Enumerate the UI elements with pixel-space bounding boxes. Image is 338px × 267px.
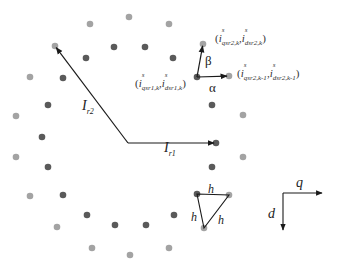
space-vector-diagram xyxy=(0,0,338,267)
triangle-side-label-top: h xyxy=(208,183,214,195)
inner-vector-dot xyxy=(209,102,216,109)
sub-d: dsr2,k xyxy=(245,39,262,47)
sub-d: dsr2,k-1 xyxy=(273,74,296,82)
sub-q: qsr2,k-1 xyxy=(244,74,267,82)
inner-vector-dot xyxy=(143,222,150,229)
inner-vector-dot xyxy=(84,212,91,219)
inner-vector-dot xyxy=(45,102,52,109)
sup-s: s xyxy=(142,72,145,79)
outer-vector-dot xyxy=(240,154,247,161)
paren-close: ) xyxy=(182,77,186,89)
alpha-arrow xyxy=(197,76,227,77)
coord-label-sr2-k: (isqsr2,k,isdsr2,k) xyxy=(215,33,266,47)
paren-close: ) xyxy=(262,32,266,44)
inner-vector-dot xyxy=(111,44,118,51)
inner-vector-dot xyxy=(209,164,216,171)
outer-vector-dot xyxy=(127,252,134,259)
paren-close: ) xyxy=(296,67,300,79)
outer-vector-dot xyxy=(27,74,34,81)
inner-vector-dot xyxy=(112,222,119,229)
inner-vector-dot xyxy=(171,212,178,219)
sub-q: qsr2,k xyxy=(222,39,239,47)
outer-vector-dot xyxy=(87,21,94,28)
inner-vector-dot xyxy=(170,55,177,62)
outer-vector-dot xyxy=(27,193,34,200)
beta-arrow xyxy=(197,46,203,77)
outer-vector-dot xyxy=(166,21,173,28)
sub-d: dsr1,k xyxy=(165,84,182,92)
outer-vector-dot xyxy=(240,112,247,119)
coord-label-sr1-k: (isqsr1,k,isdsr1,k) xyxy=(135,78,186,92)
inner-vector-dot xyxy=(60,75,67,82)
outer-vector-dot xyxy=(126,14,133,21)
inner-vector-dot xyxy=(83,55,90,62)
inner-ring-vectors xyxy=(39,44,220,229)
label-beta: β xyxy=(205,54,212,67)
inner-vector-dot xyxy=(60,192,67,199)
d-axis-label: d xyxy=(268,207,275,221)
vector-i-r2-arrow xyxy=(56,48,128,143)
sub-q: qsr1,k xyxy=(142,84,159,92)
outer-vector-dot xyxy=(89,245,96,252)
inner-vector-dot xyxy=(39,134,46,141)
outer-ring-vectors xyxy=(13,14,247,259)
label-i-r1: Ir1 xyxy=(164,141,176,158)
sup-s: s xyxy=(245,27,248,34)
inner-vector-dot xyxy=(45,164,52,171)
outer-vector-dot xyxy=(166,245,173,252)
outer-vector-dot xyxy=(54,224,61,231)
triangle-side-label-right: h xyxy=(218,214,224,226)
label-i-r2: Ir2 xyxy=(82,99,94,116)
sup-s: s xyxy=(273,62,276,69)
sup-s: s xyxy=(244,62,247,69)
sup-s: s xyxy=(165,72,168,79)
sup-s: s xyxy=(222,27,225,34)
outer-vector-dot xyxy=(13,154,20,161)
label-i-r1-sub: r1 xyxy=(169,149,176,158)
q-axis-label: q xyxy=(296,176,303,190)
triangle-side-label-left: h xyxy=(191,211,197,223)
coord-label-sr2-k-1: (isqsr2,k-1,isdsr2,k-1) xyxy=(237,68,300,82)
outer-vector-dot xyxy=(13,113,20,120)
label-i-r2-sub: r2 xyxy=(87,107,94,116)
inner-vector-dot xyxy=(142,44,149,51)
hexagon-triangle xyxy=(197,194,229,228)
label-alpha: α xyxy=(209,81,216,94)
